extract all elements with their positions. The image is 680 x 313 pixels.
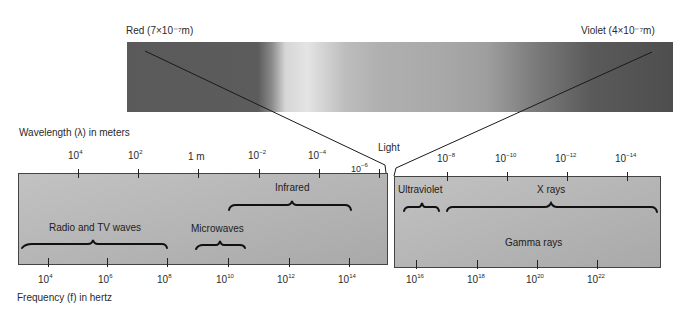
brace-xrays (447, 203, 657, 212)
brace-infrared (229, 201, 351, 210)
diagram-overlay (0, 0, 680, 313)
violet-connector-line (396, 52, 652, 168)
brace-ultraviolet (404, 203, 439, 211)
red-connector-line (145, 51, 385, 165)
brace-radio (22, 240, 167, 248)
brace-microwaves (196, 241, 245, 249)
